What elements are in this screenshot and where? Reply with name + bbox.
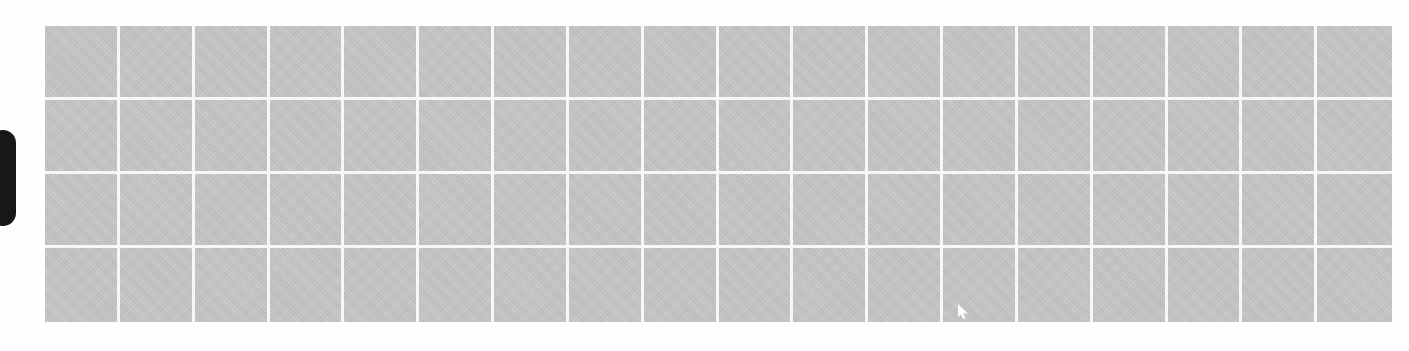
grid-cell[interactable] [644,174,719,248]
grid-cell[interactable] [569,26,644,100]
grid-cell[interactable] [1242,248,1317,322]
grid-cell[interactable] [270,248,345,322]
grid-cell[interactable] [868,174,943,248]
grid-cell[interactable] [793,174,868,248]
grid-cell[interactable] [344,100,419,174]
grid-cell[interactable] [719,100,794,174]
grid-cell[interactable] [419,26,494,100]
grid-cell[interactable] [344,248,419,322]
grid-cell[interactable] [494,100,569,174]
grid-cell[interactable] [45,26,120,100]
grid-cell[interactable] [120,26,195,100]
grid-cell[interactable] [1317,26,1392,100]
grid-cell[interactable] [943,174,1018,248]
grid-cell[interactable] [270,100,345,174]
screen-canvas [0,0,1409,351]
grid-cell[interactable] [494,26,569,100]
grid-cell[interactable] [719,26,794,100]
grid-cell[interactable] [943,248,1018,322]
grid-cell[interactable] [344,174,419,248]
grid-cell[interactable] [1168,248,1243,322]
grid-cell[interactable] [1242,174,1317,248]
grid-cell[interactable] [419,174,494,248]
grid-cell[interactable] [719,174,794,248]
grid-cell[interactable] [419,248,494,322]
grid-cell[interactable] [494,248,569,322]
grid-matrix [45,26,1392,322]
grid-cell[interactable] [195,26,270,100]
grid-cell[interactable] [195,174,270,248]
grid-cell[interactable] [120,100,195,174]
grid-cell[interactable] [868,100,943,174]
grid-cell[interactable] [868,26,943,100]
grid-cell[interactable] [1018,100,1093,174]
grid-cell[interactable] [793,248,868,322]
grid-cell[interactable] [793,26,868,100]
grid-cell[interactable] [1018,248,1093,322]
grid-cell[interactable] [1093,248,1168,322]
grid-cell[interactable] [1242,26,1317,100]
grid-cell[interactable] [344,26,419,100]
grid-cell[interactable] [45,248,120,322]
grid-cell[interactable] [1242,100,1317,174]
grid-cell[interactable] [644,248,719,322]
grid-cell[interactable] [120,248,195,322]
grid-cell[interactable] [1168,100,1243,174]
grid-cell[interactable] [195,100,270,174]
grid-cell[interactable] [868,248,943,322]
grid-panel[interactable] [45,26,1392,322]
grid-cell[interactable] [719,248,794,322]
grid-cell[interactable] [569,174,644,248]
grid-cell[interactable] [644,26,719,100]
grid-cell[interactable] [943,26,1018,100]
grid-cell[interactable] [1093,174,1168,248]
grid-cell[interactable] [45,100,120,174]
grid-cell[interactable] [644,100,719,174]
grid-cell[interactable] [419,100,494,174]
grid-cell[interactable] [270,174,345,248]
grid-cell[interactable] [1093,26,1168,100]
grid-cell[interactable] [1093,100,1168,174]
grid-cell[interactable] [1317,100,1392,174]
grid-cell[interactable] [195,248,270,322]
grid-cell[interactable] [1018,26,1093,100]
grid-cell[interactable] [1018,174,1093,248]
drawer-handle[interactable] [0,130,16,226]
grid-cell[interactable] [943,100,1018,174]
grid-cell[interactable] [120,174,195,248]
grid-cell[interactable] [793,100,868,174]
grid-cell[interactable] [1317,248,1392,322]
grid-cell[interactable] [569,248,644,322]
grid-cell[interactable] [494,174,569,248]
grid-cell[interactable] [1168,26,1243,100]
grid-cell[interactable] [1168,174,1243,248]
grid-cell[interactable] [569,100,644,174]
grid-cell[interactable] [1317,174,1392,248]
grid-cell[interactable] [270,26,345,100]
grid-cell[interactable] [45,174,120,248]
